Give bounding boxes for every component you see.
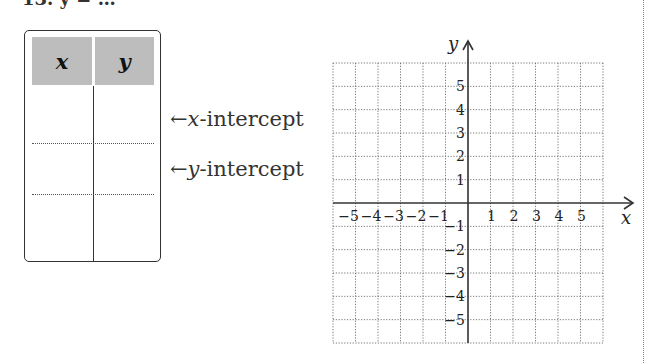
x-tick-label: −2 — [406, 208, 427, 224]
coordinate-grid: xy−5−4−3−2−112345−5−4−3−2−112345 — [0, 0, 646, 363]
x-tick-label: 5 — [577, 208, 586, 224]
y-tick-label: −2 — [444, 242, 465, 258]
x-tick-label: 4 — [555, 208, 564, 224]
x-tick-label: 1 — [487, 208, 496, 224]
x-tick-label: −3 — [383, 208, 404, 224]
y-axis-label: y — [447, 33, 459, 54]
y-tick-label: −5 — [444, 312, 465, 328]
x-tick-label: 3 — [532, 208, 541, 224]
y-tick-label: −1 — [444, 218, 465, 234]
y-tick-label: 1 — [456, 172, 465, 188]
x-tick-label: −5 — [338, 208, 359, 224]
y-tick-label: 3 — [456, 125, 465, 141]
x-tick-label: −4 — [361, 208, 382, 224]
y-tick-label: 2 — [456, 148, 465, 164]
y-tick-label: −4 — [444, 288, 465, 304]
y-tick-label: 4 — [456, 102, 465, 118]
y-tick-label: −3 — [444, 265, 465, 281]
y-tick-label: 5 — [456, 78, 465, 94]
x-tick-label: 2 — [510, 208, 519, 224]
x-axis-label: x — [621, 207, 631, 228]
